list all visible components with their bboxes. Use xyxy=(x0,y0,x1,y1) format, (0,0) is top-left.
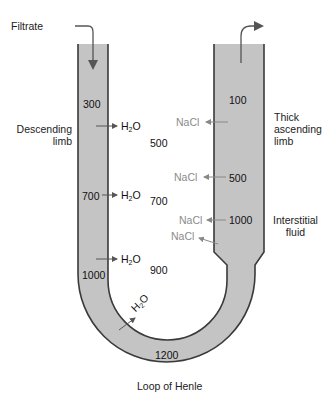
water-label-3: H2O xyxy=(121,253,141,269)
water-label-1: H2O xyxy=(121,120,141,136)
tubule-shape xyxy=(78,44,264,362)
thick-label-line2: ascending xyxy=(274,123,322,135)
ascending-value-top: 100 xyxy=(229,94,247,106)
ascending-value-mid: 500 xyxy=(229,172,247,184)
salt-label-4: NaCl xyxy=(171,230,194,242)
loop-bottom-value: 1200 xyxy=(155,349,178,361)
water-label-2: H2O xyxy=(121,189,141,205)
thick-label-line1: Thick xyxy=(274,111,322,123)
interstitial-value-2: 700 xyxy=(150,195,168,207)
descending-value-top: 300 xyxy=(83,98,101,110)
interstitial-label-line1: Interstitial xyxy=(273,214,318,226)
loop-of-henle-caption: Loop of Henle xyxy=(137,380,202,392)
descending-label-line1: Descending xyxy=(16,123,72,135)
thick-label-line3: limb xyxy=(274,135,322,147)
descending-limb-label: Descending limb xyxy=(16,123,72,147)
interstitial-value-3: 900 xyxy=(150,264,168,276)
salt-label-2: NaCl xyxy=(174,171,197,183)
ascending-value-low: 1000 xyxy=(229,214,252,226)
thick-ascending-limb-label: Thick ascending limb xyxy=(274,111,322,147)
interstitial-label-line2: fluid xyxy=(273,226,318,238)
descending-value-low: 1000 xyxy=(82,269,105,281)
salt-label-3: NaCl xyxy=(179,214,202,226)
descending-value-mid: 700 xyxy=(82,190,100,202)
descending-label-line2: limb xyxy=(16,135,72,147)
interstitial-value-1: 500 xyxy=(150,137,168,149)
salt-label-1: NaCl xyxy=(176,116,199,128)
filtrate-label: Filtrate xyxy=(11,20,43,32)
interstitial-fluid-label: Interstitial fluid xyxy=(273,214,318,238)
